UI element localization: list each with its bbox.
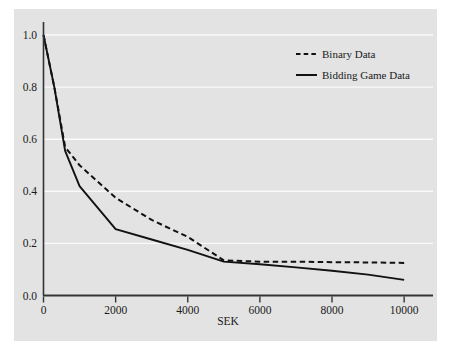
legend-label-0: Binary Data [322,48,376,60]
y-tick-label-4: 0.8 [23,81,38,93]
x-tick-group: 0200040006000800010000 [41,297,419,317]
x-axis-title: SEK [217,315,239,327]
x-tick-label-1: 2000 [104,304,127,316]
x-tick-label-3: 6000 [248,304,271,316]
x-tick-label-4: 8000 [321,304,344,316]
chart-legend: Binary DataBidding Game Data [296,48,410,81]
legend-label-1: Bidding Game Data [322,69,410,81]
x-tick-label-0: 0 [41,304,47,316]
axis-lines-group [43,22,433,296]
y-tick-label-0: 0.0 [23,290,38,302]
chart-plot-area: 0200040006000800010000 0.00.20.40.60.81.… [0,0,451,358]
chart-figure: 0200040006000800010000 0.00.20.40.60.81.… [0,0,451,358]
y-tick-label-group: 0.00.20.40.60.81.0 [23,29,38,301]
y-tick-label-1: 0.2 [23,237,38,249]
x-tick-label-5: 10000 [390,304,419,316]
x-tick-label-2: 4000 [176,304,199,316]
y-tick-label-5: 1.0 [23,29,38,41]
y-tick-label-2: 0.4 [23,185,38,197]
y-tick-label-3: 0.6 [23,133,38,145]
